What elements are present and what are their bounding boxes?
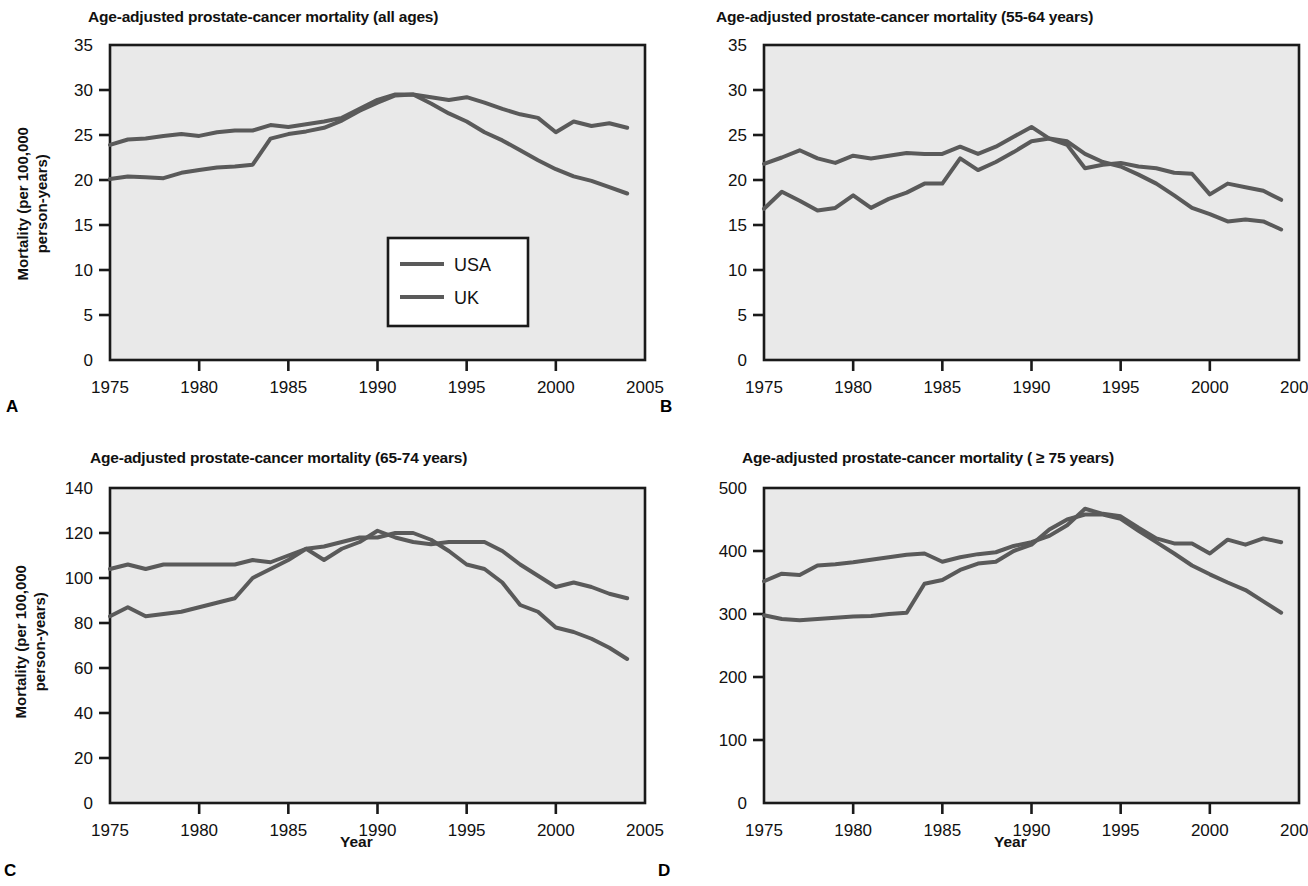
- x-axis-tick-label: 2000: [1191, 378, 1229, 397]
- panel-d-x-axis-label: Year: [994, 833, 1027, 851]
- x-axis-tick-label: 2000: [1191, 821, 1229, 840]
- panel-c-letter: C: [4, 861, 16, 881]
- x-axis-tick-label: 1975: [745, 821, 783, 840]
- x-axis-tick-label: 1985: [923, 378, 961, 397]
- x-axis-tick-label: 1975: [745, 378, 783, 397]
- y-axis-tick-label: 60: [74, 659, 93, 678]
- legend-label-uk: UK: [454, 288, 479, 308]
- y-axis-tick-label: 0: [84, 794, 93, 813]
- x-axis-tick-label: 1980: [834, 378, 872, 397]
- chart-panel-d: Age-adjusted prostate-cancer mortality (…: [654, 443, 1308, 886]
- legend-label-usa: USA: [454, 255, 491, 275]
- x-axis-tick-label: 1980: [180, 821, 218, 840]
- panel-b-plot: 0510152025303519751980198519901995200020…: [654, 0, 1308, 443]
- y-axis-tick-label: 100: [719, 731, 747, 750]
- y-axis-tick-label: 500: [719, 479, 747, 498]
- y-axis-tick-label: 0: [738, 794, 747, 813]
- y-axis-tick-label: 35: [74, 36, 93, 55]
- x-axis-tick-label: 1995: [448, 378, 486, 397]
- y-axis-tick-label: 20: [74, 171, 93, 190]
- y-axis-tick-label: 30: [74, 81, 93, 100]
- y-axis-tick-label: 0: [84, 351, 93, 370]
- y-axis-tick-label: 15: [74, 216, 93, 235]
- y-axis-tick-label: 120: [65, 524, 93, 543]
- x-axis-tick-label: 1980: [834, 821, 872, 840]
- x-axis-tick-label: 1995: [1102, 378, 1140, 397]
- panel-c-plot: 0204060801001201401975198019851990199520…: [0, 443, 654, 886]
- y-axis-tick-label: 140: [65, 479, 93, 498]
- x-axis-tick-label: 2000: [537, 821, 575, 840]
- x-axis-tick-label: 1995: [1102, 821, 1140, 840]
- x-axis-tick-label: 1985: [269, 378, 307, 397]
- x-axis-tick-label: 2005: [1280, 378, 1308, 397]
- chart-panel-a: Age-adjusted prostate-cancer mortality (…: [0, 0, 654, 443]
- panel-a-plot: 0510152025303519751980198519901995200020…: [0, 0, 654, 443]
- x-axis-tick-label: 1990: [1013, 378, 1051, 397]
- y-axis-tick-label: 25: [74, 126, 93, 145]
- plot-area-background: [110, 45, 645, 360]
- y-axis-tick-label: 400: [719, 542, 747, 561]
- y-axis-tick-label: 10: [74, 261, 93, 280]
- panel-d-letter: D: [658, 861, 670, 881]
- x-axis-tick-label: 2005: [1280, 821, 1308, 840]
- y-axis-tick-label: 35: [728, 36, 747, 55]
- plot-area-background: [764, 488, 1299, 803]
- x-axis-tick-label: 1985: [269, 821, 307, 840]
- legend: USAUK: [388, 238, 528, 326]
- y-axis-tick-label: 5: [84, 306, 93, 325]
- y-axis-tick-label: 100: [65, 569, 93, 588]
- x-axis-tick-label: 1990: [359, 378, 397, 397]
- y-axis-tick-label: 10: [728, 261, 747, 280]
- plot-area-background: [110, 488, 645, 803]
- x-axis-tick-label: 2000: [537, 378, 575, 397]
- chart-panel-b: Age-adjusted prostate-cancer mortality (…: [654, 0, 1308, 443]
- y-axis-tick-label: 25: [728, 126, 747, 145]
- y-axis-tick-label: 20: [74, 749, 93, 768]
- x-axis-tick-label: 1985: [923, 821, 961, 840]
- figure-root: Age-adjusted prostate-cancer mortality (…: [0, 0, 1308, 886]
- chart-panel-c: Age-adjusted prostate-cancer mortality (…: [0, 443, 654, 886]
- panel-b-letter: B: [660, 397, 672, 417]
- legend-box: [388, 238, 528, 326]
- y-axis-tick-label: 200: [719, 668, 747, 687]
- panel-c-x-axis-label: Year: [340, 833, 373, 851]
- y-axis-tick-label: 80: [74, 614, 93, 633]
- x-axis-tick-label: 1980: [180, 378, 218, 397]
- x-axis-tick-label: 1975: [91, 821, 129, 840]
- x-axis-tick-label: 1995: [448, 821, 486, 840]
- y-axis-tick-label: 300: [719, 605, 747, 624]
- panel-d-plot: 0100200300400500197519801985199019952000…: [654, 443, 1308, 886]
- panel-a-letter: A: [6, 397, 18, 417]
- y-axis-tick-label: 0: [738, 351, 747, 370]
- y-axis-tick-label: 30: [728, 81, 747, 100]
- x-axis-tick-label: 1975: [91, 378, 129, 397]
- y-axis-tick-label: 15: [728, 216, 747, 235]
- y-axis-tick-label: 40: [74, 704, 93, 723]
- y-axis-tick-label: 5: [738, 306, 747, 325]
- y-axis-tick-label: 20: [728, 171, 747, 190]
